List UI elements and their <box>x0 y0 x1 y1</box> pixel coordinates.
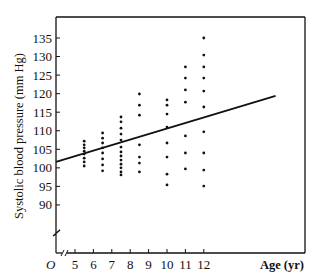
data-point <box>120 173 123 176</box>
data-point <box>101 158 104 161</box>
data-point <box>120 150 123 153</box>
data-point <box>138 114 141 117</box>
data-point <box>166 156 169 159</box>
y-tick-label: 100 <box>33 160 53 175</box>
data-point <box>120 133 123 136</box>
data-point <box>120 171 123 174</box>
data-point <box>101 152 104 155</box>
y-tick-label: 115 <box>33 105 52 120</box>
data-point <box>184 135 187 138</box>
y-axis-break <box>53 230 60 253</box>
y-tick-label: 90 <box>39 197 52 212</box>
y-tick-label: 120 <box>33 86 53 101</box>
data-point <box>202 106 205 109</box>
data-point <box>138 93 141 96</box>
x-tick-label: 6 <box>90 257 97 272</box>
data-point <box>83 153 86 156</box>
data-point <box>202 37 205 40</box>
data-point <box>83 143 86 146</box>
data-point <box>166 113 169 116</box>
x-tick-label: 8 <box>127 257 134 272</box>
data-point <box>138 104 141 107</box>
x-axis-break <box>61 250 68 256</box>
data-point <box>101 146 104 149</box>
data-point <box>101 137 104 140</box>
y-tick-label: 95 <box>39 179 52 194</box>
x-axis-title: Age (yr) <box>260 258 304 272</box>
data-point <box>202 152 205 155</box>
data-point <box>166 126 169 129</box>
data-point <box>83 140 86 143</box>
data-points <box>83 37 205 188</box>
data-point <box>120 127 123 130</box>
y-axis-title: Systolic blood pressure (mm Hg) <box>12 53 26 219</box>
data-point <box>120 155 123 158</box>
data-point <box>202 169 205 172</box>
data-point <box>138 171 141 174</box>
data-point <box>184 168 187 171</box>
data-point <box>202 77 205 80</box>
y-tick-label: 105 <box>33 142 53 157</box>
data-point <box>166 99 169 102</box>
data-point <box>184 77 187 80</box>
x-tick-label: 12 <box>197 257 210 272</box>
data-point <box>184 89 187 92</box>
axes <box>53 17 305 256</box>
data-point <box>184 66 187 69</box>
data-point <box>120 116 123 119</box>
data-point <box>166 173 169 176</box>
data-point <box>202 54 205 57</box>
data-point <box>138 156 141 159</box>
data-point <box>120 163 123 166</box>
data-point <box>166 104 169 107</box>
y-tick-label: 110 <box>33 123 52 138</box>
data-point <box>101 163 104 166</box>
data-point <box>83 146 86 149</box>
data-point <box>120 120 123 123</box>
data-point <box>202 130 205 133</box>
data-point <box>120 159 123 162</box>
origin-label: O <box>46 257 56 272</box>
y-tick-label: 130 <box>33 49 53 64</box>
data-point <box>166 142 169 145</box>
plot-frame <box>56 17 305 253</box>
x-tick-label: 9 <box>145 257 152 272</box>
data-point <box>101 132 104 135</box>
data-point <box>138 143 141 146</box>
data-point <box>101 169 104 172</box>
data-point <box>120 139 123 142</box>
data-point <box>166 184 169 187</box>
scatter-chart: 9095100105110115120125130135 56789101112… <box>0 0 322 279</box>
data-point <box>202 90 205 93</box>
y-tick-label: 125 <box>33 68 53 83</box>
data-point <box>83 161 86 164</box>
x-tick-label: 10 <box>161 257 174 272</box>
data-point <box>202 66 205 69</box>
data-point <box>83 150 86 153</box>
data-point <box>83 157 86 160</box>
x-tick-label: 5 <box>72 257 79 272</box>
x-tick-label: 11 <box>179 257 192 272</box>
data-point <box>202 185 205 188</box>
data-point <box>101 142 104 145</box>
data-point <box>83 165 86 168</box>
y-tick-label: 135 <box>33 31 53 46</box>
x-tick-label: 7 <box>109 257 116 272</box>
data-point <box>120 166 123 169</box>
data-point <box>120 146 123 149</box>
data-point <box>184 101 187 104</box>
data-point <box>184 152 187 155</box>
data-point <box>138 162 141 165</box>
